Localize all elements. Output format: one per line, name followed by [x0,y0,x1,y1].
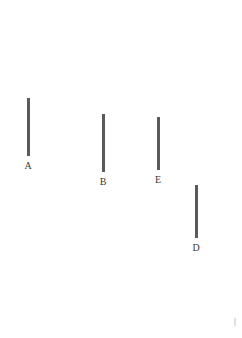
segment-label-d: D [192,243,199,253]
line-segment-b [102,114,105,172]
segment-label-a: A [24,161,31,171]
line-segment-figure: ABED [0,0,242,338]
line-segment-d [195,185,198,238]
segment-label-b: B [100,177,107,187]
line-segment-e [157,117,160,170]
edge-artifact [234,318,236,326]
segment-label-e: E [155,175,161,185]
line-segment-a [27,98,30,156]
